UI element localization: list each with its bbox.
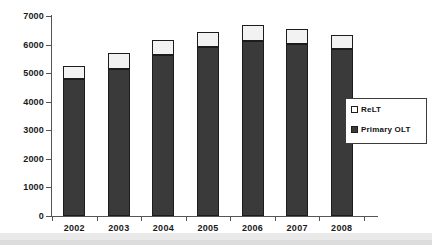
bar-segment-primary-olt[interactable] [242, 41, 264, 216]
y-axis-tick [46, 130, 51, 131]
bar-segment-relt[interactable] [331, 35, 353, 49]
y-axis-tick-label: 5000 [0, 68, 44, 78]
legend-swatch-relt-icon [351, 106, 358, 113]
y-axis-tick-label: 4000 [0, 97, 44, 107]
bar-segment-primary-olt[interactable] [286, 44, 308, 216]
y-axis-tick-label: 2000 [0, 154, 44, 164]
bar-segment-relt[interactable] [286, 29, 308, 44]
x-axis-tick [230, 217, 231, 221]
y-axis-tick [46, 73, 51, 74]
x-axis-tick [275, 217, 276, 221]
legend-item-relt[interactable]: ReLT [351, 105, 381, 114]
y-axis-tick [46, 216, 51, 217]
y-axis-tick [46, 45, 51, 46]
bar-segment-relt[interactable] [197, 32, 219, 48]
x-axis-line [51, 216, 378, 217]
legend-label-primary-olt: Primary OLT [361, 125, 411, 134]
bar-stack[interactable] [108, 53, 130, 216]
y-axis-tick-label: 7000 [0, 11, 44, 21]
x-axis-tick [186, 217, 187, 221]
scan-artifact-band-lower [0, 240, 432, 245]
chart-legend: ReLT Primary OLT [345, 98, 427, 144]
bar-stack[interactable] [63, 66, 85, 216]
y-axis-tick-label: 6000 [0, 40, 44, 50]
bar-stack[interactable] [286, 29, 308, 216]
x-axis-tick [364, 217, 365, 221]
bar-segment-primary-olt[interactable] [152, 55, 174, 216]
bar-segment-relt[interactable] [63, 66, 85, 79]
x-axis-tick [97, 217, 98, 221]
legend-item-primary-olt[interactable]: Primary OLT [351, 125, 411, 134]
x-axis-tick [52, 217, 53, 221]
legend-label-relt: ReLT [361, 105, 381, 114]
y-axis-tick [46, 16, 51, 17]
bar-segment-primary-olt[interactable] [63, 79, 85, 216]
y-axis-tick-label: 3000 [0, 125, 44, 135]
y-axis-tick [46, 102, 51, 103]
bar-segment-relt[interactable] [152, 40, 174, 55]
bar-stack[interactable] [152, 40, 174, 216]
bar-segment-primary-olt[interactable] [108, 69, 130, 216]
bar-stack[interactable] [242, 25, 264, 216]
x-axis-tick [319, 217, 320, 221]
bar-stack[interactable] [197, 32, 219, 216]
y-axis-tick-label: 0 [0, 211, 44, 221]
x-axis-tick [141, 217, 142, 221]
plot-area [52, 16, 364, 216]
legend-swatch-primary-olt-icon [351, 126, 358, 133]
y-axis-tick [46, 187, 51, 188]
y-axis-tick [46, 159, 51, 160]
chart-figure: 01000200030004000500060007000 2002200320… [0, 0, 432, 245]
bar-segment-relt[interactable] [242, 25, 264, 42]
y-axis-tick-label: 1000 [0, 182, 44, 192]
bar-segment-relt[interactable] [108, 53, 130, 69]
bar-segment-primary-olt[interactable] [197, 47, 219, 216]
